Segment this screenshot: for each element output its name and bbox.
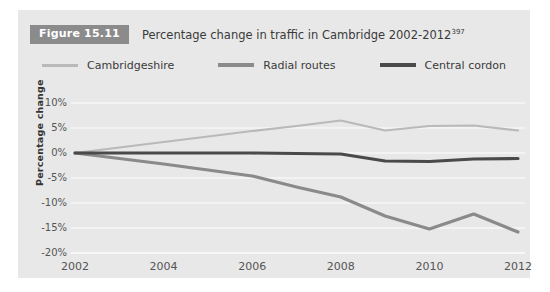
x-axis-tick-label: 2012 <box>495 261 541 272</box>
legend-item-central-cordon: Central cordon <box>380 59 506 72</box>
legend-line-swatch-central-cordon <box>380 63 416 67</box>
y-axis-tick-label: 0% <box>33 148 67 158</box>
figure-title-footnote: 397 <box>451 28 464 36</box>
series-line-radial-routes <box>75 153 518 232</box>
figure-title: Percentage change in traffic in Cambridg… <box>142 26 465 42</box>
legend-item-radial-routes: Radial routes <box>218 59 335 72</box>
legend-item-cambridgeshire: Cambridgeshire <box>42 59 174 72</box>
y-axis-tick-label: -20% <box>33 248 67 258</box>
legend-line-swatch-radial-routes <box>218 63 254 67</box>
y-axis-tick-label: 5% <box>33 123 67 133</box>
plot-area: Percentage change 10%5%0%-5%-10%-15%-20%… <box>18 78 530 278</box>
figure-panel: Figure 15.11 Percentage change in traffi… <box>18 10 530 278</box>
figure-title-text: Percentage change in traffic in Cambridg… <box>142 28 452 42</box>
x-axis-tick-label: 2006 <box>229 261 275 272</box>
x-axis-tick-label: 2010 <box>406 261 452 272</box>
x-axis-tick-label: 2004 <box>141 261 187 272</box>
x-axis-tick-label: 2002 <box>52 261 98 272</box>
legend-line-swatch-cambridgeshire <box>42 64 78 67</box>
series-line-cambridgeshire <box>75 121 518 154</box>
y-axis-tick-label: -5% <box>33 173 67 183</box>
chart-legend: Cambridgeshire Radial routes Central cor… <box>18 56 530 74</box>
legend-label-cambridgeshire: Cambridgeshire <box>87 59 174 72</box>
y-axis-tick-label: -15% <box>33 223 67 233</box>
y-axis-tick-label: -10% <box>33 198 67 208</box>
x-axis-tick-label: 2008 <box>318 261 364 272</box>
y-axis-tick-label: 10% <box>33 98 67 108</box>
figure-number-badge: Figure 15.11 <box>30 25 129 44</box>
legend-label-radial-routes: Radial routes <box>263 59 335 72</box>
chart-canvas <box>18 78 530 278</box>
figure-header: Figure 15.11 Percentage change in traffi… <box>30 24 465 44</box>
legend-label-central-cordon: Central cordon <box>425 59 506 72</box>
